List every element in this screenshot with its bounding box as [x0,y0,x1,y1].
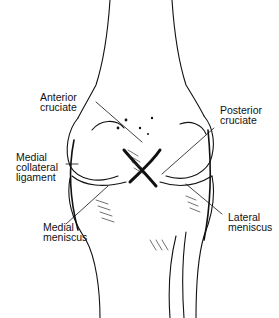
femur-outline [78,0,110,118]
acl-shape [124,150,156,186]
label-line: cruciate [40,102,77,112]
label-medial-meniscus: Medial meniscus [43,222,87,242]
label-anterior-cruciate: Anterior cruciate [40,92,77,112]
fibula [169,236,176,318]
label-line: meniscus [43,232,87,242]
lcl-shape [204,130,210,240]
label-line: cruciate [220,115,262,125]
tibia-outline-right [196,176,214,318]
label-line: meniscus [228,222,272,232]
label-medial-collateral: Medial collateral ligament [16,152,58,182]
medial-condyle [67,118,118,180]
lateral-condyle [166,116,213,178]
label-line: ligament [16,172,58,182]
pcl-shape [130,150,160,182]
label-lateral-meniscus: Lateral meniscus [228,212,272,232]
label-posterior-cruciate: Posterior cruciate [220,105,262,125]
femur-outline-right [172,0,204,116]
leader-lateral-meniscus [186,184,222,214]
tibia-outline [69,178,100,318]
medial-meniscus-shape [72,176,126,185]
